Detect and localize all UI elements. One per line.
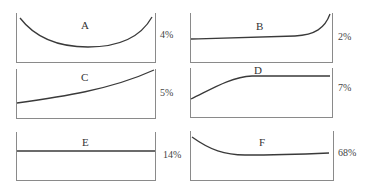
panel-f-percent: 68% (338, 147, 356, 158)
panel-f-curve (0, 0, 366, 193)
panel-f-letter: F (259, 136, 265, 148)
